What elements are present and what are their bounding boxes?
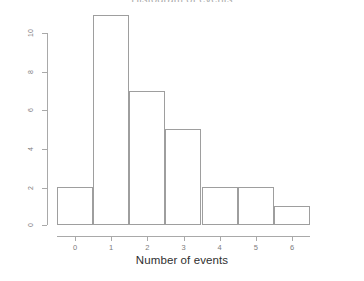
x-tick-1 [111,236,112,241]
histogram-bar [274,206,310,225]
x-tick-label-2: 2 [139,243,155,252]
x-tick-label-3: 3 [176,243,192,252]
plot-panel: 10 8 6 4 2 0 0 1 2 3 4 5 6 [48,12,336,225]
x-tick-4 [220,236,221,241]
y-tick-2 [42,188,47,189]
x-tick-0 [75,236,76,241]
y-tick-label-4: 4 [27,142,35,156]
x-tick-label-6: 6 [284,243,300,252]
histogram-bar [165,129,201,225]
y-tick-label-2: 2 [27,181,35,195]
x-tick-label-5: 5 [248,243,264,252]
histogram-bar [202,187,238,225]
y-tick-label-8: 8 [27,65,35,79]
histogram-bar [57,187,93,225]
histogram-bar [129,91,165,225]
chart-title: Histogram of events [0,0,364,2]
y-axis-line [47,33,48,225]
x-tick-5 [256,236,257,241]
x-tick-2 [147,236,148,241]
x-axis-title: Number of events [0,254,364,266]
y-tick-6 [42,110,47,111]
histogram-plot: Histogram of events 10 8 6 4 2 0 0 1 2 [0,0,364,281]
y-tick-10 [42,33,47,34]
histogram-bar [93,15,129,225]
x-tick-6 [292,236,293,241]
x-tick-3 [184,236,185,241]
y-tick-8 [42,72,47,73]
y-tick-4 [42,149,47,150]
x-tick-label-0: 0 [67,243,83,252]
y-tick-0 [42,225,47,226]
x-tick-label-4: 4 [212,243,228,252]
y-tick-label-0: 0 [27,218,35,232]
x-tick-label-1: 1 [103,243,119,252]
histogram-bar [238,187,274,225]
y-tick-label-10: 10 [27,26,35,40]
y-tick-label-6: 6 [27,103,35,117]
